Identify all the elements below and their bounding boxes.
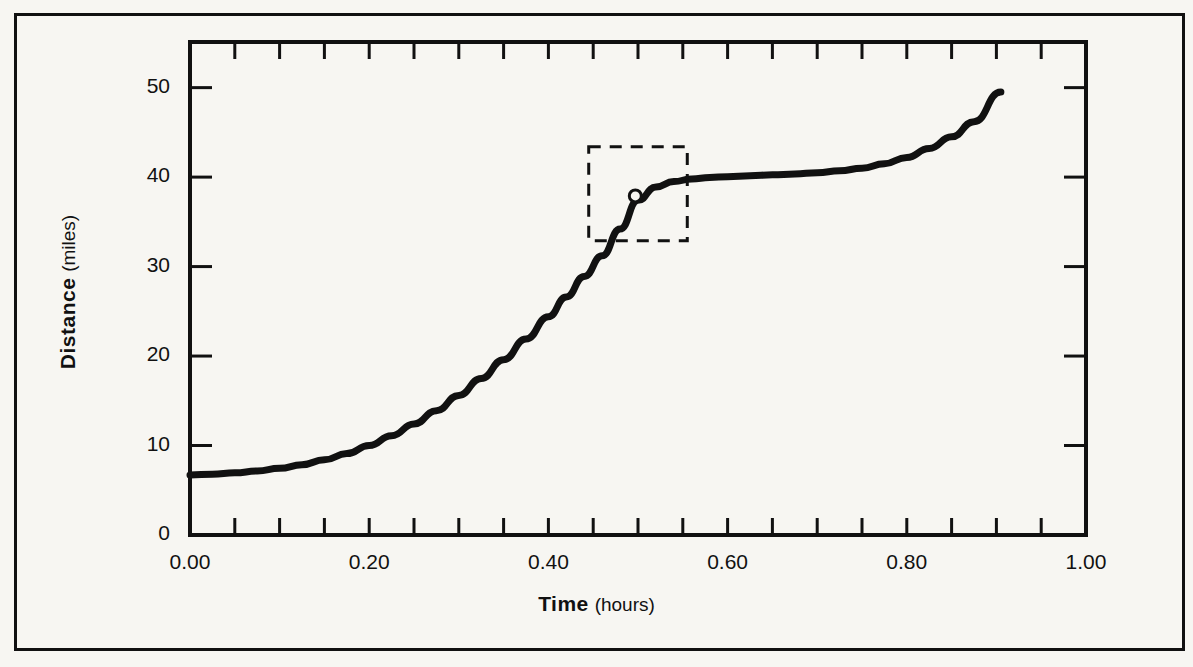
- x-axis-title-light: (hours): [595, 594, 655, 615]
- figure-canvas: Distance (miles) Time (hours) 0102030405…: [0, 0, 1193, 667]
- y-axis-title-bold: Distance: [56, 278, 79, 370]
- y-axis-title-light: (miles): [58, 215, 79, 272]
- y-axis-title: Distance (miles): [56, 132, 80, 452]
- y-axis-tick-label: 10: [100, 432, 170, 456]
- data-curve: [190, 92, 1001, 475]
- x-axis-tick-label: 0.80: [852, 550, 962, 574]
- x-axis-title-bold: Time: [538, 592, 589, 615]
- y-axis-tick-label: 20: [100, 342, 170, 366]
- y-axis-tick-label: 50: [100, 74, 170, 98]
- x-axis-tick-label: 1.00: [1031, 550, 1141, 574]
- x-axis-tick-label: 0.00: [135, 550, 245, 574]
- x-axis-tick-label: 0.20: [314, 550, 424, 574]
- tangent-point-marker: [629, 190, 641, 202]
- x-axis-tick-label: 0.60: [673, 550, 783, 574]
- x-axis-title: Time (hours): [0, 592, 1193, 616]
- y-axis-tick-label: 30: [100, 253, 170, 277]
- y-axis-tick-label: 40: [100, 163, 170, 187]
- y-axis-tick-label: 0: [100, 521, 170, 545]
- x-axis-tick-label: 0.40: [493, 550, 603, 574]
